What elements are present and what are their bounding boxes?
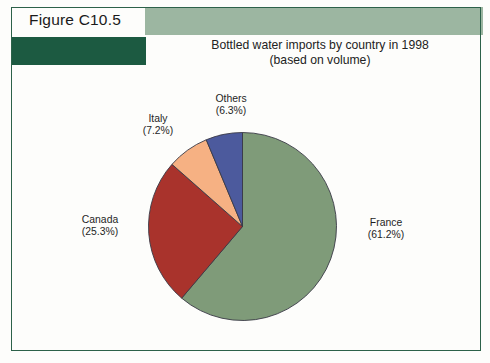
pie-label-others: Others (6.3%) (196, 93, 266, 118)
pie-label-italy-name: Italy (148, 113, 167, 124)
pie-label-italy: Italy (7.2%) (126, 113, 190, 138)
pie-label-france: France (61.2%) (348, 217, 424, 242)
pie-label-italy-pct: (7.2%) (126, 125, 190, 137)
pie-label-canada-name: Canada (82, 214, 118, 225)
pie-label-canada-pct: (25.3%) (62, 226, 138, 238)
pie-slice-group (149, 133, 337, 321)
pie-label-canada: Canada (25.3%) (62, 214, 138, 239)
pie-label-france-name: France (370, 217, 402, 228)
pie-label-others-pct: (6.3%) (196, 105, 266, 117)
pie-chart (0, 0, 490, 363)
pie-label-others-name: Others (215, 93, 246, 104)
pie-label-france-pct: (61.2%) (348, 229, 424, 241)
figure-page: Figure C10.5 Bottled water imports by co… (0, 0, 490, 363)
